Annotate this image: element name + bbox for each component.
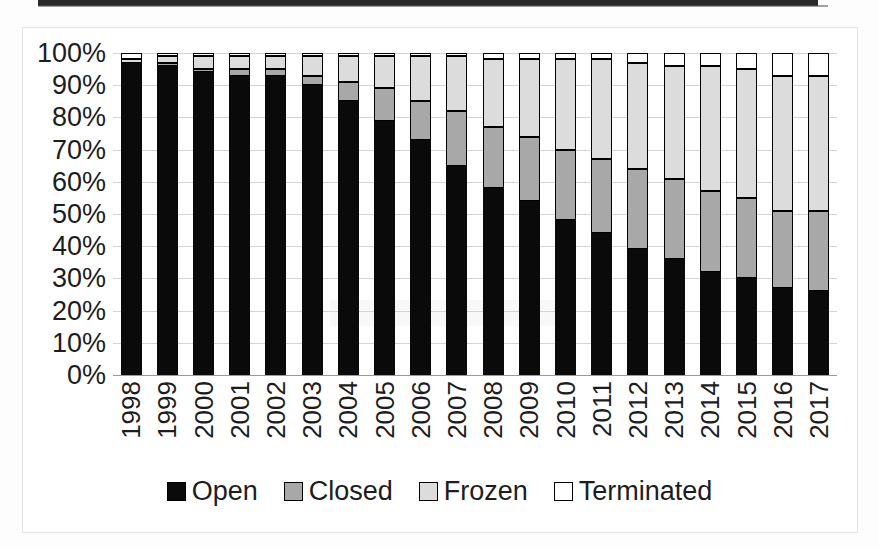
bar-slot-2015[interactable] (728, 53, 764, 375)
bar-slot-2000[interactable] (185, 53, 221, 375)
stacked-bar-2003[interactable] (302, 53, 323, 375)
stacked-bar-1998[interactable] (121, 53, 142, 375)
bar-segment-2008-open[interactable] (483, 188, 504, 375)
bar-segment-2012-closed[interactable] (627, 169, 648, 250)
bar-segment-2005-open[interactable] (374, 121, 395, 375)
stacked-bar-2014[interactable] (700, 53, 721, 375)
bar-segment-2013-closed[interactable] (664, 179, 685, 260)
bar-segment-2005-closed[interactable] (374, 88, 395, 120)
bar-segment-2010-closed[interactable] (555, 150, 576, 221)
bar-segment-2002-frozen[interactable] (265, 56, 286, 69)
bar-segment-2013-frozen[interactable] (664, 66, 685, 179)
bar-segment-2015-closed[interactable] (736, 198, 757, 279)
legend-item-closed[interactable]: Closed (284, 478, 393, 505)
bar-segment-2011-closed[interactable] (591, 159, 612, 233)
bar-segment-2006-frozen[interactable] (410, 56, 431, 101)
bar-segment-2001-open[interactable] (229, 76, 250, 375)
bar-slot-2005[interactable] (366, 53, 402, 375)
bar-segment-2012-open[interactable] (627, 249, 648, 375)
bar-segment-2000-frozen[interactable] (193, 56, 214, 69)
bar-segment-2016-open[interactable] (772, 288, 793, 375)
bar-segment-2004-frozen[interactable] (338, 56, 359, 82)
stacked-bar-2006[interactable] (410, 53, 431, 375)
bar-segment-2009-open[interactable] (519, 201, 540, 375)
bar-slot-2011[interactable] (584, 53, 620, 375)
stacked-bar-2007[interactable] (446, 53, 467, 375)
bar-segment-2015-open[interactable] (736, 278, 757, 375)
bar-segment-2004-closed[interactable] (338, 82, 359, 101)
bar-segment-2016-closed[interactable] (772, 211, 793, 288)
bar-slot-2002[interactable] (258, 53, 294, 375)
bar-segment-2007-open[interactable] (446, 166, 467, 375)
stacked-bar-1999[interactable] (157, 53, 178, 375)
bar-slot-2013[interactable] (656, 53, 692, 375)
legend-item-frozen[interactable]: Frozen (419, 478, 528, 505)
bar-segment-2014-terminated[interactable] (700, 53, 721, 66)
bar-segment-2014-closed[interactable] (700, 191, 721, 272)
stacked-bar-2013[interactable] (664, 53, 685, 375)
bar-segment-2000-open[interactable] (193, 72, 214, 375)
bar-slot-2001[interactable] (222, 53, 258, 375)
bar-segment-2016-frozen[interactable] (772, 76, 793, 211)
bar-segment-2004-open[interactable] (338, 101, 359, 375)
bar-slot-2017[interactable] (801, 53, 837, 375)
bar-slot-2010[interactable] (547, 53, 583, 375)
stacked-bar-2004[interactable] (338, 53, 359, 375)
bar-slot-2016[interactable] (765, 53, 801, 375)
bar-segment-1998-open[interactable] (121, 63, 142, 375)
bar-slot-2014[interactable] (692, 53, 728, 375)
bar-segment-2015-frozen[interactable] (736, 69, 757, 198)
stacked-bar-2011[interactable] (591, 53, 612, 375)
bar-segment-2011-open[interactable] (591, 233, 612, 375)
bar-segment-2007-frozen[interactable] (446, 56, 467, 111)
stacked-bar-2017[interactable] (808, 53, 829, 375)
bar-segment-2003-frozen[interactable] (302, 56, 323, 75)
bar-segment-2016-terminated[interactable] (772, 53, 793, 76)
stacked-bar-2012[interactable] (627, 53, 648, 375)
bar-slot-1999[interactable] (149, 53, 185, 375)
bar-segment-2012-terminated[interactable] (627, 53, 648, 63)
bar-slot-2006[interactable] (403, 53, 439, 375)
bar-slot-2009[interactable] (511, 53, 547, 375)
stacked-bar-2001[interactable] (229, 53, 250, 375)
stacked-bar-2005[interactable] (374, 53, 395, 375)
bar-segment-2013-terminated[interactable] (664, 53, 685, 66)
bar-segment-2007-closed[interactable] (446, 111, 467, 166)
bar-segment-2010-open[interactable] (555, 220, 576, 375)
stacked-bar-2000[interactable] (193, 53, 214, 375)
stacked-bar-2008[interactable] (483, 53, 504, 375)
bar-slot-2008[interactable] (475, 53, 511, 375)
legend-item-terminated[interactable]: Terminated (554, 478, 713, 505)
bar-segment-2009-closed[interactable] (519, 137, 540, 201)
bar-slot-2004[interactable] (330, 53, 366, 375)
bar-segment-2017-closed[interactable] (808, 211, 829, 292)
bar-segment-2005-frozen[interactable] (374, 56, 395, 88)
stacked-bar-2016[interactable] (772, 53, 793, 375)
stacked-bar-2009[interactable] (519, 53, 540, 375)
bar-slot-2012[interactable] (620, 53, 656, 375)
bar-segment-2015-terminated[interactable] (736, 53, 757, 69)
bar-slot-2003[interactable] (294, 53, 330, 375)
bar-segment-2010-frozen[interactable] (555, 59, 576, 149)
bar-segment-1999-open[interactable] (157, 66, 178, 375)
bar-segment-2011-frozen[interactable] (591, 59, 612, 159)
bar-segment-2006-open[interactable] (410, 140, 431, 375)
bar-segment-2002-open[interactable] (265, 76, 286, 375)
bar-segment-2017-frozen[interactable] (808, 76, 829, 211)
stacked-bar-2002[interactable] (265, 53, 286, 375)
bar-segment-2008-closed[interactable] (483, 127, 504, 188)
bar-segment-2014-frozen[interactable] (700, 66, 721, 192)
bar-slot-1998[interactable] (113, 53, 149, 375)
bar-segment-2012-frozen[interactable] (627, 63, 648, 169)
bar-slot-2007[interactable] (439, 53, 475, 375)
bar-segment-2013-open[interactable] (664, 259, 685, 375)
bar-segment-2008-frozen[interactable] (483, 59, 504, 127)
stacked-bar-2015[interactable] (736, 53, 757, 375)
bar-segment-2017-open[interactable] (808, 291, 829, 375)
bar-segment-2014-open[interactable] (700, 272, 721, 375)
bar-segment-2003-open[interactable] (302, 85, 323, 375)
bar-segment-2009-frozen[interactable] (519, 59, 540, 136)
bar-segment-2017-terminated[interactable] (808, 53, 829, 76)
bar-segment-2001-frozen[interactable] (229, 56, 250, 69)
stacked-bar-2010[interactable] (555, 53, 576, 375)
